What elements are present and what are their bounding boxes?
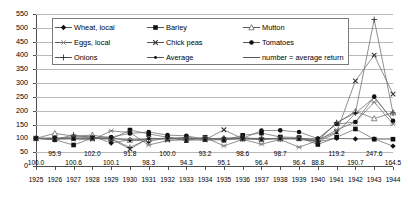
data-point-marker (249, 40, 254, 45)
data-point-marker (297, 130, 302, 135)
legend-item-number-average-return[interactable]: number = average return (243, 50, 348, 65)
data-point-marker (353, 79, 358, 84)
legend-label: Mutton (262, 23, 285, 32)
data-point-marker (72, 137, 75, 140)
average-return-label: 98.7 (267, 150, 293, 157)
data-point-marker (222, 127, 227, 132)
data-point-marker (91, 136, 94, 139)
legend-label: Tomatoes (262, 38, 294, 47)
data-point-marker (61, 25, 66, 30)
legend-item-wheat-local[interactable]: Wheat, local (55, 20, 147, 35)
cross-x-icon (147, 39, 164, 46)
data-point-marker (279, 137, 282, 140)
chart-container: 050100150200250300350400450500550 192519… (0, 0, 408, 197)
series-line (36, 97, 393, 140)
legend-item-barley[interactable]: Barley (147, 20, 243, 35)
data-point-marker (316, 140, 319, 143)
data-point-marker (334, 135, 339, 140)
average-return-label: 190.7 (342, 159, 368, 166)
data-point-marker (129, 139, 132, 142)
average-return-label: 96.4 (248, 159, 274, 166)
legend-item-tomatoes[interactable]: Tomatoes (243, 35, 348, 50)
average-return-label: 247.6 (361, 150, 387, 157)
legend-label: Chick peas (166, 38, 203, 47)
data-point-marker (53, 138, 56, 141)
data-point-marker (249, 25, 254, 30)
star-icon (55, 39, 72, 46)
plus-icon (55, 54, 72, 61)
legend-item-mutton[interactable]: Mutton (243, 20, 348, 35)
data-point-marker (373, 96, 376, 99)
data-point-marker (185, 139, 188, 142)
data-point-marker (372, 53, 377, 58)
legend-label: Eggs, local (74, 38, 110, 47)
data-point-marker (110, 137, 113, 140)
data-point-marker (392, 119, 395, 122)
data-point-marker (147, 137, 150, 140)
legend-item-eggs-local[interactable]: Eggs, local (55, 35, 147, 50)
data-point-marker (71, 143, 76, 148)
legend-label: Barley (166, 23, 187, 32)
data-point-marker (353, 127, 358, 132)
average-return-label: 100.1 (98, 159, 124, 166)
average-return-label: 102.0 (79, 150, 105, 157)
data-point-marker (354, 112, 357, 115)
legend-label: Onions (74, 53, 97, 62)
data-point-marker (353, 136, 358, 141)
series-eggs-local (33, 100, 396, 150)
data-point-marker (391, 137, 396, 142)
average-return-label: 98.3 (136, 159, 162, 166)
open-triangle-icon (243, 24, 260, 31)
line-only-icon (243, 54, 260, 61)
data-point-marker (260, 138, 263, 141)
average-return-label: 94.3 (173, 159, 199, 166)
legend-label: Wheat, local (74, 23, 115, 32)
average-return-label: 119.2 (324, 150, 350, 157)
data-point-marker (335, 132, 338, 135)
data-point-marker (371, 17, 377, 23)
data-point-marker (146, 130, 151, 135)
legend-item-average[interactable]: Average (147, 50, 243, 65)
data-point-marker (204, 139, 207, 142)
average-return-label: 100.6 (61, 159, 87, 166)
data-point-marker (222, 138, 225, 141)
filled-diamond-icon (55, 24, 72, 31)
legend-label: number = average return (262, 53, 344, 62)
chart-legend: Wheat, localBarleyMuttonEggs, localChick… (52, 18, 349, 65)
small-dot-icon (147, 54, 164, 61)
data-point-marker (153, 25, 158, 30)
data-point-marker (259, 142, 265, 147)
filled-circle-icon (243, 39, 260, 46)
data-point-marker (391, 92, 396, 97)
average-return-label: 164.5 (380, 159, 406, 166)
data-point-marker (166, 137, 169, 140)
data-point-marker (61, 55, 67, 61)
data-point-marker (241, 137, 244, 140)
data-point-marker (221, 144, 227, 149)
legend-item-onions[interactable]: Onions (55, 50, 147, 65)
average-return-label: 93.2 (192, 150, 218, 157)
average-return-label: 88.8 (305, 159, 331, 166)
data-point-marker (353, 120, 358, 125)
legend-item-chick-peas[interactable]: Chick peas (147, 35, 243, 50)
average-return-label: 100.0 (155, 150, 181, 157)
data-point-marker (128, 131, 133, 136)
data-point-marker (259, 128, 264, 133)
average-return-label: 91.8 (117, 150, 143, 157)
data-point-marker (278, 128, 283, 133)
data-point-marker (35, 137, 38, 140)
data-point-marker (61, 40, 67, 45)
average-return-label: 98.6 (230, 150, 256, 157)
data-point-marker (154, 56, 157, 59)
average-return-label: 95.9 (42, 150, 68, 157)
data-point-marker (298, 138, 301, 141)
data-point-marker (52, 130, 57, 135)
average-return-label: 95.1 (211, 159, 237, 166)
average-return-label: 100.0 (23, 159, 49, 166)
data-point-marker (390, 143, 395, 148)
data-point-marker (153, 40, 158, 45)
data-point-marker (108, 129, 114, 134)
filled-square-icon (147, 24, 164, 31)
legend-label: Average (166, 53, 193, 62)
series-wheat-local (33, 133, 395, 148)
